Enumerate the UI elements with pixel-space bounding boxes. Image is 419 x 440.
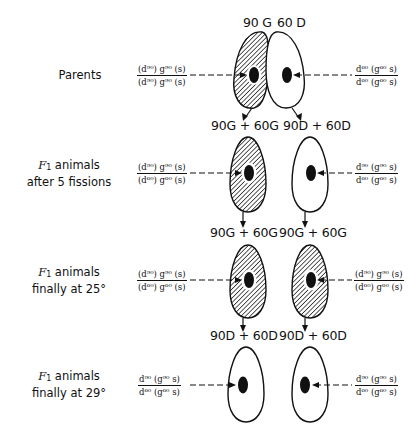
row-label-finally-25: F1 animals finally at 25° — [14, 265, 124, 297]
f-symbol: F — [38, 265, 46, 279]
formula-numerator: d⁹⁰ (g⁹⁰ s) — [355, 374, 398, 386]
formula-denominator: d⁶⁰ (g⁶⁰ s) — [355, 174, 398, 185]
row-label-text: animals — [51, 158, 100, 172]
nucleus-icon — [249, 67, 259, 83]
formula-numerator: (d⁹⁰) g⁹⁰ (s) — [137, 269, 187, 281]
cell-label-row2-left: 90G + 60G — [211, 118, 279, 133]
cell-label-90G: 90 G — [243, 15, 272, 30]
formula-numerator: d⁹⁰ (g⁹⁰ s) — [138, 374, 181, 386]
nucleus-icon — [238, 377, 248, 394]
row-label-text: animals — [51, 369, 100, 383]
row-label-finally-29: F1 animals finally at 29° — [14, 369, 124, 401]
cell-label-row3-right: 90G + 60G — [279, 225, 347, 240]
cell-label-row4-right: 90D + 60D — [279, 328, 347, 343]
row-label-text: finally at 29° — [14, 386, 124, 401]
nucleus-icon — [306, 165, 316, 181]
row-label-after-5-fissions: F1 animals after 5 fissions — [14, 158, 124, 190]
formula-denominator: (d⁶⁰) g⁶⁰ (s) — [137, 281, 187, 292]
f-symbol: F — [38, 369, 46, 383]
formula-numerator: (d⁹⁰) g⁹⁰ (s) — [354, 269, 404, 281]
formula-numerator: d⁹⁰ (g⁹⁰ s) — [355, 162, 398, 174]
formula-denominator: d⁶⁰ (g⁶⁰ s) — [138, 386, 181, 397]
cell-label-60D: 60 D — [277, 15, 306, 30]
nucleus-icon — [282, 67, 292, 83]
parent-cell-60D — [266, 32, 304, 108]
cell-label-row2-right: 90D + 60D — [283, 118, 351, 133]
row-label-text: Parents — [59, 68, 102, 82]
genotype-formula-left-row4: d⁹⁰ (g⁹⁰ s) d⁶⁰ (g⁶⁰ s) — [138, 374, 181, 397]
nucleus-icon — [300, 377, 310, 394]
nucleus-icon — [244, 272, 254, 288]
genotype-formula-left-row2: (d⁹⁰) g⁹⁰ (s) (d⁶⁰) g⁶⁰ (s) — [137, 162, 187, 185]
row-label-text: finally at 25° — [14, 282, 124, 297]
genotype-formula-right-row2: d⁹⁰ (g⁹⁰ s) d⁶⁰ (g⁶⁰ s) — [355, 162, 398, 185]
nucleus-icon — [306, 272, 316, 288]
formula-numerator: (d⁹⁰) g⁹⁰ (s) — [137, 64, 187, 76]
row-label-text: animals — [51, 265, 100, 279]
genotype-formula-right-row1: d⁶⁰ (g⁶⁰ s) d⁶⁰ (g⁶⁰ s) — [355, 64, 398, 87]
f-symbol: F — [38, 158, 46, 172]
formula-denominator: (d⁶⁰) g⁶⁰ (s) — [137, 174, 187, 185]
genotype-formula-left-row3: (d⁹⁰) g⁹⁰ (s) (d⁶⁰) g⁶⁰ (s) — [137, 269, 187, 292]
formula-numerator: d⁶⁰ (g⁶⁰ s) — [355, 64, 398, 76]
row-label-text: after 5 fissions — [14, 175, 124, 190]
genotype-formula-right-row4: d⁹⁰ (g⁹⁰ s) d⁶⁰ (g⁶⁰ s) — [355, 374, 398, 397]
genotype-formula-left-row1: (d⁹⁰) g⁹⁰ (s) (d⁹⁰) g⁹⁰ (s) — [137, 64, 187, 87]
cell-label-row4-left: 90D + 60D — [210, 328, 278, 343]
genotype-formula-right-row3: (d⁹⁰) g⁹⁰ (s) (d⁶⁰) g⁶⁰ (s) — [354, 269, 404, 292]
formula-denominator: d⁶⁰ (g⁶⁰ s) — [355, 386, 398, 397]
formula-denominator: d⁶⁰ (g⁶⁰ s) — [355, 76, 398, 87]
formula-denominator: (d⁹⁰) g⁹⁰ (s) — [137, 76, 187, 87]
f1-cell-right-row4 — [292, 347, 328, 422]
row-label-parents: Parents — [40, 68, 120, 83]
nucleus-icon — [244, 165, 254, 181]
formula-denominator: (d⁶⁰) g⁶⁰ (s) — [354, 281, 404, 292]
formula-numerator: (d⁹⁰) g⁹⁰ (s) — [137, 162, 187, 174]
parent-cell-90G — [234, 32, 269, 108]
cell-label-row3-left: 90G + 60G — [210, 225, 278, 240]
